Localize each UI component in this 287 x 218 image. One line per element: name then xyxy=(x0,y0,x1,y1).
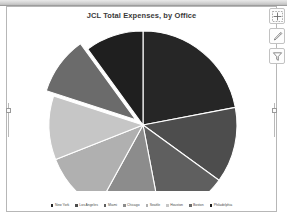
legend-item[interactable]: Boston xyxy=(189,204,204,207)
legend-swatch xyxy=(210,204,213,207)
legend-item[interactable]: Miami xyxy=(104,204,117,207)
legend-swatch xyxy=(75,204,78,207)
funnel-icon xyxy=(272,51,283,62)
legend-label: Los Angeles xyxy=(79,204,97,207)
chart-elements-button[interactable] xyxy=(269,8,285,24)
legend-item[interactable]: New York xyxy=(51,204,69,207)
legend-swatch xyxy=(123,204,126,207)
legend-item[interactable]: Chicago xyxy=(123,204,140,207)
legend-label: Philadelphia xyxy=(214,204,232,207)
chart-object[interactable]: JCL Total Expenses, by Office New YorkLo… xyxy=(6,6,277,212)
legend-label: Miami xyxy=(108,204,117,207)
legend-item[interactable]: Los Angeles xyxy=(75,204,98,207)
legend-swatch xyxy=(104,204,107,207)
resize-handle-right[interactable] xyxy=(272,108,277,113)
legend-item[interactable]: Houston xyxy=(166,204,183,207)
pie-plot-area[interactable] xyxy=(37,19,249,191)
resize-handle-left[interactable] xyxy=(6,108,11,113)
legend-swatch xyxy=(146,204,149,207)
brush-icon xyxy=(272,31,283,42)
chart-legend[interactable]: New YorkLos AngelesMiamiChicagoSeattleHo… xyxy=(7,204,276,207)
legend-swatch xyxy=(189,204,192,207)
chart-quick-buttons[interactable] xyxy=(269,8,285,64)
legend-label: Boston xyxy=(193,204,204,207)
legend-label: Seattle xyxy=(150,204,161,207)
pie-slices[interactable] xyxy=(46,31,237,191)
pie-chart-svg[interactable] xyxy=(37,19,249,191)
legend-label: New York xyxy=(55,204,69,207)
legend-label: Houston xyxy=(170,204,183,207)
legend-swatch xyxy=(51,204,54,207)
legend-label: Chicago xyxy=(127,204,139,207)
legend-item[interactable]: Seattle xyxy=(146,204,161,207)
legend-swatch xyxy=(166,204,169,207)
legend-item[interactable]: Philadelphia xyxy=(210,204,233,207)
chart-filters-button[interactable] xyxy=(269,48,285,64)
plus-icon xyxy=(272,11,283,22)
chart-styles-button[interactable] xyxy=(269,28,285,44)
